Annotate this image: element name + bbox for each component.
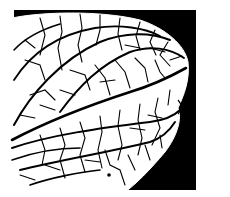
leaf-illustration: [0, 0, 230, 197]
leaf-venation-svg: [0, 0, 230, 197]
spot-mark: [107, 173, 111, 177]
